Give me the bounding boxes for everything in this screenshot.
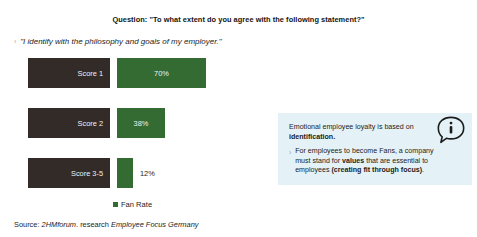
source-prefix: Source: [14,220,42,229]
chevron-right-icon: › [14,36,16,48]
statement-text: "I identify with the philosophy and goal… [20,36,222,48]
title-band: Question: "To what extent do you agree w… [0,15,477,24]
info-lead-text: Emotional employee loyalty is based on i… [289,123,446,142]
chart-row-score-1: Score 1 70% [0,58,270,88]
source-org: 2HMforum [42,220,77,229]
info-bullet-row: › For employees to become Fans, a compan… [289,147,446,176]
value-label: 12% [140,169,155,178]
chart-row-score-2: Score 2 38% [0,108,270,138]
source-mid: . research [76,220,111,229]
chart-row-score-3-5: Score 3-5 12% [0,158,270,188]
value-label: 70% [154,69,169,78]
legend-swatch-icon [113,202,118,207]
info-callout-box: Emotional employee loyalty is based on i… [278,113,472,185]
chart-legend: Fan Rate [0,200,265,209]
info-speech-bubble-icon [436,115,466,145]
statement-row: › "I identify with the philosophy and go… [14,36,222,48]
bar-chart: Score 1 70% Score 2 38% Score 3-5 12% [0,58,270,198]
info-lead-plain: Emotional employee loyalty is based on [289,123,414,131]
chevron-right-icon: › [289,147,291,159]
source-study: Employee Focus Germany [111,220,199,229]
page-title: Question: "To what extent do you agree w… [0,15,477,24]
info-bullet-text: For employees to become Fans, a company … [295,147,446,176]
info-lead-bold: identification. [289,133,335,141]
category-label-bar: Score 1 [28,58,110,88]
value-label: 38% [134,119,149,128]
category-label-bar: Score 2 [28,108,110,138]
value-bar-score-1: 70% [117,58,206,88]
value-bar-score-3-5: 12% [117,158,133,188]
legend-label: Fan Rate [121,200,152,209]
info-bullet-part3: . [422,166,424,174]
info-bullet-bold-values: values [342,157,364,165]
category-label-bar: Score 3-5 [28,158,110,188]
category-label: Score 3-5 [71,169,103,178]
source-note: Source: 2HMforum. research Employee Focu… [14,220,198,229]
info-bullet-bold-fit: (creating fit through focus) [331,166,422,174]
category-label: Score 2 [78,119,103,128]
category-label: Score 1 [78,69,103,78]
value-bar-score-2: 38% [117,108,165,138]
